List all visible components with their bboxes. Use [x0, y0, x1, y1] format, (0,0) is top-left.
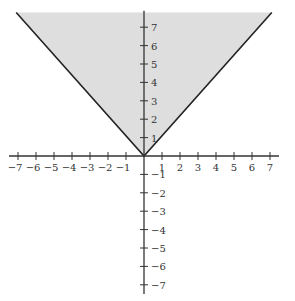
y-tick-label: 7	[151, 22, 157, 33]
y-tick-label: 2	[151, 114, 157, 125]
x-tick-label: −1	[116, 162, 131, 173]
y-tick-label: −3	[151, 206, 166, 217]
y-tick-label: −6	[151, 261, 166, 272]
y-tick-label: 5	[151, 59, 157, 70]
x-tick-label: 6	[249, 162, 255, 173]
y-tick-label: −2	[151, 188, 166, 199]
y-tick-label: −5	[151, 243, 166, 254]
x-tick-label: 7	[267, 162, 273, 173]
y-tick-label: 1	[151, 133, 157, 144]
x-tick-label: −5	[44, 162, 59, 173]
y-tick-label: 4	[151, 77, 157, 88]
x-tick-label: 5	[231, 162, 237, 173]
x-tick-label: 4	[213, 162, 219, 173]
x-tick-label: −7	[8, 162, 23, 173]
x-tick-label: −6	[26, 162, 41, 173]
x-tick-label: −4	[62, 162, 77, 173]
y-tick-label: 6	[151, 41, 157, 52]
y-tick-label: 3	[151, 96, 157, 107]
x-tick-label: 2	[177, 162, 183, 173]
x-axis-ticks: −7−6−5−4−3−2−11234567	[8, 152, 274, 173]
x-tick-label: −3	[80, 162, 95, 173]
y-tick-label: −7	[151, 280, 166, 291]
y-tick-label: −1	[151, 169, 166, 180]
graph-container: −7−6−5−4−3−2−11234567 −7−6−5−4−3−2−11234…	[0, 0, 295, 301]
y-tick-label: −4	[151, 225, 166, 236]
inequality-graph: −7−6−5−4−3−2−11234567 −7−6−5−4−3−2−11234…	[0, 0, 295, 301]
x-tick-label: −2	[98, 162, 113, 173]
x-tick-label: 3	[195, 162, 201, 173]
